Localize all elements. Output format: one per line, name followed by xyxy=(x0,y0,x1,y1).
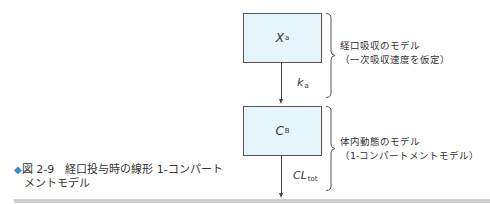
absorption-rate-label: ka xyxy=(297,76,309,90)
caption-line: メントモデル xyxy=(14,177,223,191)
clearance-arrow xyxy=(281,155,282,193)
body-compartment-box: CB xyxy=(243,106,322,156)
compartment-symbol: X xyxy=(276,31,284,45)
right-brace-icon xyxy=(325,106,337,191)
rate-subscript: a xyxy=(304,82,308,90)
caption-line: 図 2-9 経口投与時の線形 1-コンパート xyxy=(22,163,223,176)
figure-caption: ◆図 2-9 経口投与時の線形 1-コンパート メントモデル xyxy=(14,163,223,191)
label-line: （1-コンパートメントモデル） xyxy=(340,149,479,163)
absorption-arrow xyxy=(281,62,282,99)
diamond-bullet-icon: ◆ xyxy=(14,164,22,175)
right-brace-icon xyxy=(325,13,337,98)
rate-symbol: k xyxy=(297,76,303,89)
rate-symbol: CL xyxy=(293,169,307,182)
arrowhead-icon xyxy=(279,193,283,198)
clearance-rate-label: CLtot xyxy=(293,169,318,183)
absorption-compartment-box: Xa xyxy=(243,13,322,63)
disposition-model-label: 体内動態のモデル （1-コンパートメントモデル） xyxy=(340,135,479,163)
compartment-symbol: C xyxy=(275,124,283,138)
footer-divider xyxy=(14,199,490,203)
compartment-subscript: B xyxy=(285,127,290,135)
rate-subscript: tot xyxy=(308,175,318,183)
label-line: 体内動態のモデル xyxy=(340,135,479,149)
compartment-subscript: a xyxy=(285,34,289,42)
arrowhead-icon xyxy=(279,99,283,104)
label-line: 経口吸収のモデル xyxy=(340,39,450,53)
label-line: （一次吸収速度を仮定） xyxy=(340,53,450,67)
absorption-model-label: 経口吸収のモデル （一次吸収速度を仮定） xyxy=(340,39,450,67)
